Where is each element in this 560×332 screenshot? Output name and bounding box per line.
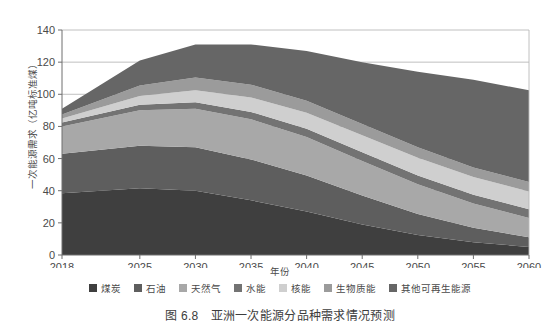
legend-swatch-icon-gas [179, 284, 187, 292]
y-tick-label-100: 100 [37, 88, 55, 100]
stacked-area-chart: 0204060801001201402018202520302035204020… [0, 0, 560, 268]
legend-label: 水能 [246, 281, 266, 295]
figure-container: 0204060801001201402018202520302035204020… [0, 0, 560, 332]
legend-swatch-icon-oil [134, 284, 142, 292]
legend-item-hydro[interactable]: 水能 [234, 281, 266, 295]
figure-caption: 图 6.8亚洲一次能源分品种需求情况预测 [0, 306, 560, 323]
y-axis-title: 一次能源需求（亿吨标准煤） [27, 24, 38, 224]
y-tick-label-40: 40 [43, 185, 55, 197]
y-tick-label-80: 80 [43, 120, 55, 132]
y-tick-label-60: 60 [43, 153, 55, 165]
legend-label: 生物质能 [336, 281, 376, 295]
legend-item-other_renewables[interactable]: 其他可再生能源 [389, 281, 471, 295]
legend-swatch-icon-coal [89, 284, 97, 292]
legend-item-coal[interactable]: 煤炭 [89, 281, 121, 295]
chart-legend: 煤炭石油天然气水能核能生物质能其他可再生能源 [0, 281, 560, 295]
legend-label: 石油 [146, 281, 166, 295]
chart-plot-area: 0204060801001201402018202520302035204020… [0, 0, 560, 268]
y-tick-label-0: 0 [49, 249, 55, 261]
legend-swatch-icon-hydro [234, 284, 242, 292]
y-tick-label-20: 20 [43, 217, 55, 229]
figure-caption-text: 亚洲一次能源分品种需求情况预测 [211, 309, 396, 323]
legend-item-gas[interactable]: 天然气 [179, 281, 221, 295]
legend-item-oil[interactable]: 石油 [134, 281, 166, 295]
legend-swatch-icon-biomass [324, 284, 332, 292]
legend-label: 其他可再生能源 [401, 281, 471, 295]
x-axis-title: 年份 [0, 264, 560, 278]
legend-label: 煤炭 [101, 281, 121, 295]
figure-number: 图 6.8 [165, 309, 199, 323]
y-tick-label-120: 120 [37, 56, 55, 68]
legend-item-biomass[interactable]: 生物质能 [324, 281, 376, 295]
y-tick-label-140: 140 [37, 24, 55, 36]
legend-label: 核能 [291, 281, 311, 295]
legend-swatch-icon-nuclear [279, 284, 287, 292]
legend-label: 天然气 [191, 281, 221, 295]
legend-swatch-icon-other_renewables [389, 284, 397, 292]
legend-item-nuclear[interactable]: 核能 [279, 281, 311, 295]
